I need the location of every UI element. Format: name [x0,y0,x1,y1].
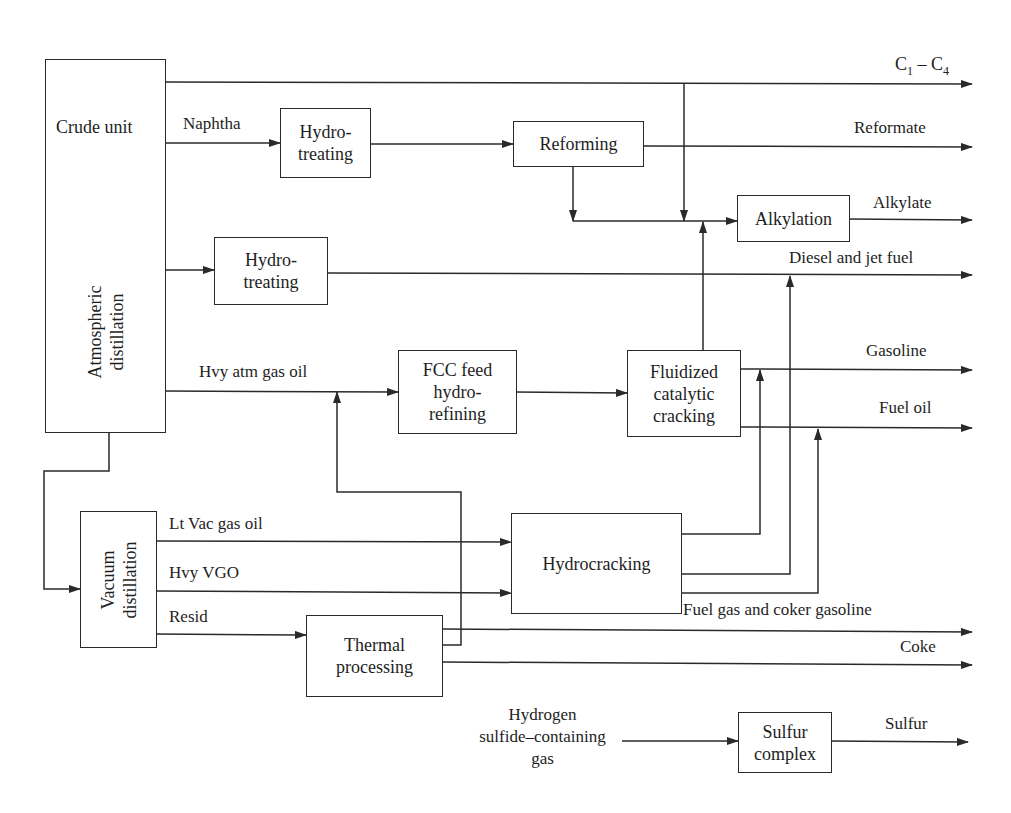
vacuum-distillation-box: Vacuum distillation [80,511,157,648]
fcc-feed-label-line3: refining [429,403,486,425]
fcc-label-line3: cracking [653,405,715,427]
hydrocracking-label: Hydrocracking [543,553,651,575]
hydrotreating-label-line1: Hydro- [300,121,352,143]
fcc-label-line2: catalytic [654,383,715,405]
stream-label-naphtha: Naphtha [183,114,241,134]
stream-label-resid: Resid [169,607,208,627]
sulfur-complex-label-line2: complex [754,743,816,765]
stream-label-diesel-jet: Diesel and jet fuel [789,248,913,268]
stream-label-gasoline: Gasoline [866,341,926,361]
distillation-label: distillation [106,252,128,412]
stream-label-coke: Coke [900,637,936,657]
thermal-label-line2: processing [336,656,413,678]
reforming-label: Reforming [540,133,618,155]
hydrotreating-distillate-box: Hydro- treating [214,237,328,305]
fcc-feed-label-line1: FCC feed [423,359,493,381]
hydrotreating2-label-line1: Hydro- [245,249,297,271]
vacuum-distillation-label: Vacuum distillation [97,541,141,618]
thermal-label-line1: Thermal [344,634,405,656]
fcc-feed-hydrorefining-box: FCC feed hydro- refining [398,350,517,434]
stream-label-fuel-gas-coker: Fuel gas and coker gasoline [683,600,872,620]
fcc-feed-label-line2: hydro- [434,381,482,403]
stream-label-fuel-oil: Fuel oil [879,398,931,418]
stream-label-hvy-atm-gas-oil: Hvy atm gas oil [199,362,307,382]
stream-label-alkylate: Alkylate [873,193,932,213]
fluidized-catalytic-cracking-box: Fluidized catalytic cracking [627,350,741,437]
stream-label-sulfur: Sulfur [885,714,928,734]
vacuum-distillation-word: distillation [119,541,141,618]
fcc-label-line1: Fluidized [650,361,718,383]
h2s-line1: Hydrogen [455,704,630,726]
reforming-box: Reforming [513,121,644,167]
hydrotreating-label-line2: treating [298,143,353,165]
crude-unit-title: Crude unit [56,117,133,137]
stream-label-h2s-gas: Hydrogen sulfide–containing gas [455,704,630,770]
crude-unit-box: Crude unit Atmospheric distillation [45,59,166,433]
stream-label-lt-vac-gas-oil: Lt Vac gas oil [169,514,263,534]
atmospheric-distillation-label: Atmospheric distillation [84,252,128,412]
sulfur-complex-box: Sulfur complex [738,712,832,773]
thermal-processing-box: Thermal processing [306,615,443,697]
hydrotreating2-label-line2: treating [244,271,299,293]
hydrotreating-naphtha-box: Hydro- treating [280,108,371,178]
stream-label-reformate: Reformate [854,118,926,138]
atmospheric-label: Atmospheric [84,252,106,412]
stream-label-c1-c4: C1 – C4 [895,54,949,81]
hydrocracking-box: Hydrocracking [511,513,682,614]
alkylation-label: Alkylation [755,208,832,230]
stream-label-hvy-vgo: Hvy VGO [169,563,239,583]
h2s-line2: sulfide–containing [455,726,630,748]
alkylation-box: Alkylation [737,195,850,242]
sulfur-complex-label-line1: Sulfur [763,721,808,743]
h2s-line3: gas [455,748,630,770]
vacuum-label: Vacuum [97,541,119,618]
